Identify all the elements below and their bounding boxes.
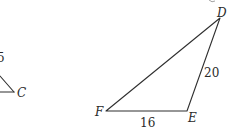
vertex-label-e: E (187, 111, 197, 125)
left-triangle: 5 C (0, 51, 26, 100)
vertex-label-f: F (94, 105, 104, 119)
vertex-label-c: C (17, 86, 26, 100)
side-label-fe: 16 (140, 116, 155, 130)
left-triangle-slanted-edge (0, 76, 14, 92)
left-triangle-side-label: 5 (0, 51, 5, 65)
geometry-figure: 5 C D E F 20 16 (0, 0, 228, 134)
triangle-def: D E F 20 16 (94, 6, 227, 130)
vertex-label-d: D (216, 6, 227, 20)
triangle-def-outline (106, 18, 220, 111)
side-label-ed: 20 (204, 66, 219, 80)
cropped-label-fragment (209, 0, 215, 2)
